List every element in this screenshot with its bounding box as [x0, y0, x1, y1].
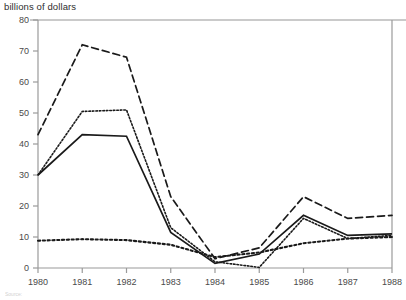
x-tick-label: 1983 — [161, 277, 181, 287]
y-tick-label: 60 — [19, 77, 29, 87]
y-tick-label: 40 — [19, 139, 29, 149]
series-line-dashed-series — [38, 45, 392, 259]
x-tick-label: 1986 — [293, 277, 313, 287]
x-tick-label: 1984 — [205, 277, 225, 287]
x-tick-label: 1988 — [382, 277, 402, 287]
x-tick-label: 1987 — [338, 277, 358, 287]
y-tick-label: 70 — [19, 46, 29, 56]
y-tick-label: 0 — [24, 263, 29, 273]
x-tick-label: 1985 — [249, 277, 269, 287]
series-line-solid-series — [38, 135, 392, 264]
y-tick-label: 10 — [19, 232, 29, 242]
line-chart-plot: 01020304050607080 1980198119821983198419… — [0, 0, 406, 300]
plot-frame — [30, 20, 406, 268]
chart-container: billions of dollars 01020304050607080 19… — [0, 0, 406, 300]
series-line-fine-dotted-series — [38, 110, 392, 267]
x-tick-label: 1982 — [116, 277, 136, 287]
source-note: Source: — [5, 291, 401, 298]
y-tick-label: 50 — [19, 108, 29, 118]
y-tick-label: 20 — [19, 201, 29, 211]
data-series-group — [38, 45, 392, 268]
y-tick-label: 30 — [19, 170, 29, 180]
x-tick-label: 1980 — [28, 277, 48, 287]
y-axis-ticks: 01020304050607080 — [19, 15, 38, 273]
x-tick-label: 1981 — [72, 277, 92, 287]
series-line-coarse-dotted-series — [38, 237, 392, 257]
y-tick-label: 80 — [19, 15, 29, 25]
x-axis-ticks: 198019811982198319841985198619871988 — [28, 268, 402, 287]
